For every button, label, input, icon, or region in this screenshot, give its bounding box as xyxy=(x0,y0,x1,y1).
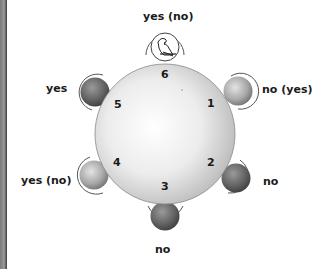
round-table-diagram xyxy=(0,0,321,269)
seat-1 xyxy=(224,73,259,109)
seat-number-2: 2 xyxy=(207,157,215,169)
seat-3 xyxy=(148,202,183,231)
seat-label-1: no (yes) xyxy=(262,84,312,96)
seat-label-2: no xyxy=(263,176,278,188)
seat-number-4: 4 xyxy=(113,157,121,169)
seat-number-1: 1 xyxy=(207,98,215,110)
seat-6 xyxy=(146,33,184,61)
seat-number-3: 3 xyxy=(161,181,169,193)
seat-number-6: 6 xyxy=(161,69,169,81)
seat-label-3: no xyxy=(155,244,170,256)
seat-label-6: yes (no) xyxy=(143,11,193,23)
seat-label-5: yes xyxy=(46,83,67,95)
seat-number-5: 5 xyxy=(114,99,122,111)
seat-label-4: yes (no) xyxy=(21,175,71,187)
